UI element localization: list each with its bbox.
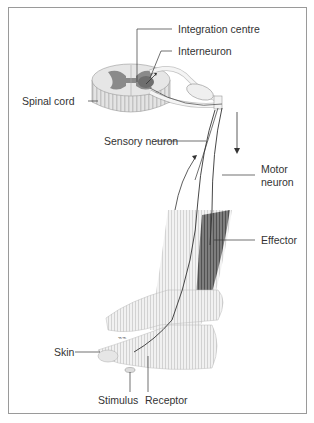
label-motor-neuron-line2: neuron — [261, 176, 294, 188]
foot-illustration — [98, 325, 217, 369]
svg-text:⌁⌁: ⌁⌁ — [118, 334, 126, 342]
label-motor-neuron-line1: Motor — [261, 163, 288, 175]
reflex-arc-illustration: ⌁⌁ — [0, 0, 314, 423]
label-stimulus: Stimulus — [98, 394, 138, 406]
label-skin: Skin — [54, 346, 74, 358]
label-interneuron: Interneuron — [178, 45, 232, 57]
label-sensory-neuron: Sensory neuron — [104, 135, 178, 147]
label-spinal-cord: Spinal cord — [22, 95, 75, 107]
label-effector: Effector — [261, 234, 297, 246]
label-integration-centre: Integration centre — [178, 23, 260, 35]
label-receptor: Receptor — [145, 394, 188, 406]
